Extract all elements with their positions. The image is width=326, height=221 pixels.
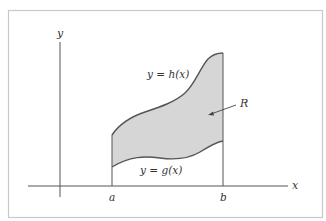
bound-b-label: b: [220, 191, 227, 203]
bound-a-label: a: [109, 191, 115, 203]
upper-curve-label: y = h(x): [146, 68, 189, 80]
y-axis-label: y: [56, 27, 64, 40]
region-diagram: y x y = h(x) y = g(x) R a b: [0, 0, 326, 221]
x-axis-label: x: [292, 179, 299, 192]
lower-curve-label: y = g(x): [139, 164, 182, 176]
region-label: R: [239, 97, 248, 110]
